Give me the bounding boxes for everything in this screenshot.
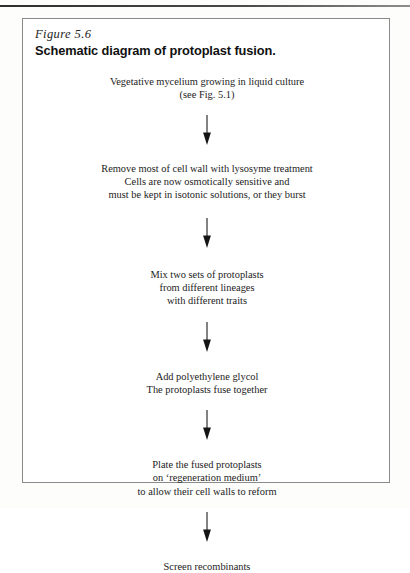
step-add-peg: Add polyethylene glycol The protoplasts … xyxy=(147,370,268,397)
figure-frame: Figure 5.6 Schematic diagram of protopla… xyxy=(22,18,390,483)
step-mix-protoplasts: Mix two sets of protoplasts from differe… xyxy=(150,268,263,308)
flowchart: Vegetative mycelium growing in liquid cu… xyxy=(23,75,391,573)
figure-number: Figure 5.6 xyxy=(35,27,377,41)
down-arrow-icon xyxy=(200,218,214,252)
figure-title: Schematic diagram of protoplast fusion. xyxy=(35,43,377,59)
step-remove-cell-wall: Remove most of cell wall with lysosyme t… xyxy=(101,162,313,202)
down-arrow-icon xyxy=(200,322,214,356)
down-arrow-icon xyxy=(200,410,214,444)
down-arrow-icon xyxy=(200,512,214,546)
step-vegetative-mycelium: Vegetative mycelium growing in liquid cu… xyxy=(110,75,304,102)
step-plate-regeneration: Plate the fused protoplasts on ‘regenera… xyxy=(137,458,276,498)
step-screen-recombinants: Screen recombinants xyxy=(164,560,251,573)
down-arrow-icon xyxy=(200,115,214,149)
page-top-rule xyxy=(0,5,410,7)
figure-caption: Figure 5.6 Schematic diagram of protopla… xyxy=(35,27,377,59)
